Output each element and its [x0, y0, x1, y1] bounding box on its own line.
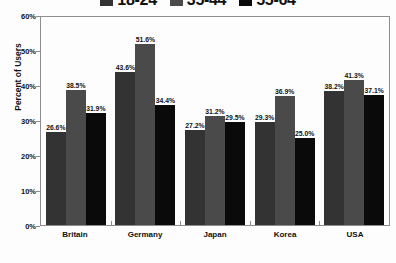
- bar-value-label: 36.9%: [275, 88, 294, 95]
- bar-value-label: 25.0%: [295, 130, 314, 137]
- x-axis-labels: BritainGermanyJapanKoreaUSA: [40, 230, 390, 239]
- bar-value-label: 41.3%: [345, 72, 364, 79]
- bar-value-label: 31.9%: [86, 105, 105, 112]
- bar-value-label: 29.3%: [255, 114, 274, 121]
- bar-group: 26.6%38.5%31.9%: [41, 17, 111, 225]
- bar: 38.5%: [66, 90, 86, 225]
- legend-label-1: 35-44: [187, 0, 226, 8]
- bar-value-label: 37.1%: [365, 87, 384, 94]
- bar-value-label: 51.6%: [136, 36, 155, 43]
- y-axis-tick-label: 20%: [2, 152, 36, 161]
- bar-chart: 18-24 35-44 55-64 Percent of Users 0%10%…: [0, 0, 396, 263]
- legend-swatch-icon-2: [239, 0, 252, 6]
- bar-groups: 26.6%38.5%31.9%43.6%51.6%34.4%27.2%31.2%…: [41, 17, 389, 225]
- bar-group: 43.6%51.6%34.4%: [111, 17, 181, 225]
- y-axis-tick-label: 40%: [2, 82, 36, 91]
- bar: 38.2%: [324, 91, 344, 225]
- legend-item-2: 55-64: [239, 0, 295, 8]
- legend-label-0: 18-24: [117, 0, 156, 8]
- bar: 36.9%: [275, 96, 295, 225]
- legend-swatch-icon-1: [170, 0, 183, 6]
- bar-group: 38.2%41.3%37.1%: [319, 17, 389, 225]
- chart-legend: 18-24 35-44 55-64: [0, 0, 396, 9]
- bar: 43.6%: [115, 72, 135, 225]
- y-axis-tick-mark: [36, 226, 40, 227]
- bar: 26.6%: [46, 132, 66, 225]
- bar-value-label: 34.4%: [156, 97, 175, 104]
- legend-item-1: 35-44: [170, 0, 226, 8]
- y-axis-ticks: 0%10%20%30%40%50%60%: [0, 0, 36, 263]
- bar-value-label: 26.6%: [46, 124, 65, 131]
- bar: 51.6%: [135, 44, 155, 225]
- bar: 37.1%: [364, 95, 384, 225]
- y-axis-tick-label: 50%: [2, 47, 36, 56]
- bar-value-label: 27.2%: [185, 122, 204, 129]
- y-axis-tick-label: 30%: [2, 117, 36, 126]
- bar: 29.5%: [225, 122, 245, 225]
- legend-item-0: 18-24: [100, 0, 156, 8]
- y-axis-tick-label: 60%: [2, 12, 36, 21]
- x-axis-category-label: Britain: [40, 230, 110, 239]
- x-axis-category-label: Japan: [180, 230, 250, 239]
- bar-value-label: 29.5%: [225, 114, 244, 121]
- bar-value-label: 38.5%: [66, 82, 85, 89]
- x-axis-category-label: Germany: [110, 230, 180, 239]
- bar-value-label: 38.2%: [325, 83, 344, 90]
- bar-group: 29.3%36.9%25.0%: [250, 17, 320, 225]
- y-axis-tick-label: 10%: [2, 187, 36, 196]
- bar: 41.3%: [344, 80, 364, 225]
- x-axis-category-label: USA: [320, 230, 390, 239]
- bar: 25.0%: [295, 138, 315, 226]
- y-axis-tick-label: 0%: [2, 222, 36, 231]
- x-axis-category-label: Korea: [250, 230, 320, 239]
- bar: 31.2%: [205, 116, 225, 225]
- bar: 29.3%: [255, 122, 275, 225]
- bar-value-label: 31.2%: [205, 108, 224, 115]
- bar: 34.4%: [155, 105, 175, 225]
- bar: 31.9%: [86, 113, 106, 225]
- plot-area: 26.6%38.5%31.9%43.6%51.6%34.4%27.2%31.2%…: [40, 16, 390, 226]
- bar-value-label: 43.6%: [116, 64, 135, 71]
- bar-group: 27.2%31.2%29.5%: [180, 17, 250, 225]
- legend-label-2: 55-64: [256, 0, 295, 8]
- bar: 27.2%: [185, 130, 205, 225]
- legend-swatch-icon-0: [100, 0, 113, 6]
